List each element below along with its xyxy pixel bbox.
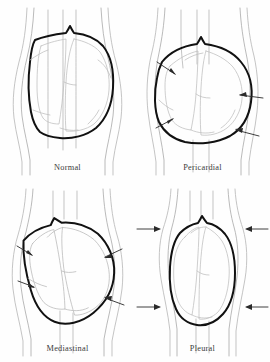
panel-label-pericardial: Pericardial [135, 163, 270, 172]
pericardial-illustration [135, 0, 270, 181]
arrow-lower-left [137, 304, 161, 310]
mediastinal-illustration [0, 181, 135, 362]
arrow-lower-right [245, 304, 268, 310]
panel-label-mediastinal: Mediastinal [0, 344, 135, 353]
arrow-lower-right [235, 128, 259, 136]
panel-mediastinal: Mediastinal [0, 181, 135, 362]
panel-pericardial: Pericardial [135, 0, 270, 181]
panel-label-pleural: Pleural [135, 344, 270, 353]
figure-canvas: Normal [0, 0, 270, 362]
panel-normal: Normal [0, 0, 135, 181]
panel-pleural: Pleural [135, 181, 270, 362]
normal-illustration [0, 0, 135, 181]
arrow-upper-left [137, 226, 161, 232]
arrow-upper-right [245, 226, 268, 232]
panel-label-normal: Normal [0, 163, 135, 172]
pleural-illustration [135, 181, 270, 362]
